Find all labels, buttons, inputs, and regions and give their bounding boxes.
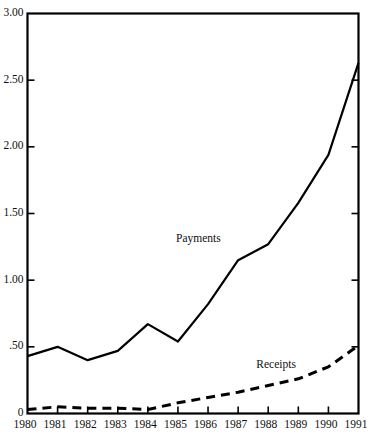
plot-frame (28, 14, 359, 414)
x-axis-tick-label: 1984 (134, 418, 157, 430)
y-axis-tick-label: 2.50 (3, 73, 23, 85)
x-axis-tick-label: 1985 (164, 418, 187, 430)
y-axis-tick-label: 0 (18, 406, 24, 418)
line-chart-plot (0, 0, 383, 437)
y-axis-tick-label: 1.00 (3, 273, 23, 285)
y-axis-tick-label: 3.00 (3, 6, 23, 18)
series-label-receipts: Receipts (256, 358, 296, 370)
y-axis-tick-label: 2.00 (3, 139, 23, 151)
y-axis-tick-label: .50 (9, 339, 23, 351)
y-axis-tick-label: 1.50 (3, 206, 23, 218)
series-label-payments: Payments (176, 232, 221, 244)
x-axis-tick-label: 1987 (224, 418, 247, 430)
x-axis-tick-label: 1986 (194, 418, 217, 430)
x-axis-tick-label: 1980 (14, 418, 37, 430)
x-axis-tick-label: 1990 (314, 418, 337, 430)
x-axis-tick-label: 1983 (104, 418, 127, 430)
x-axis-tick-label: 1988 (254, 418, 277, 430)
axis-ticks (28, 80, 359, 413)
x-axis-tick-label: 1989 (284, 418, 307, 430)
x-axis-tick-label: 1981 (44, 418, 67, 430)
chart-container: 3.002.502.001.501.00.500 198019811982198… (0, 0, 383, 437)
x-axis-tick-label: 1982 (74, 418, 97, 430)
x-axis-tick-label: 1991 (345, 418, 368, 430)
